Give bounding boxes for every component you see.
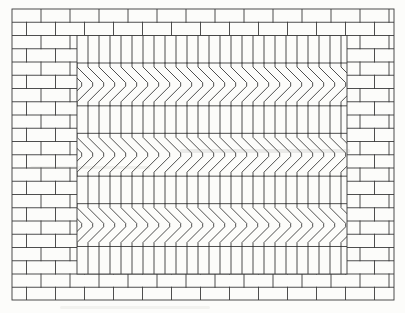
page-background xyxy=(0,0,405,313)
brick-pattern-figure xyxy=(0,0,405,313)
brick-pattern-drawing xyxy=(0,0,405,313)
